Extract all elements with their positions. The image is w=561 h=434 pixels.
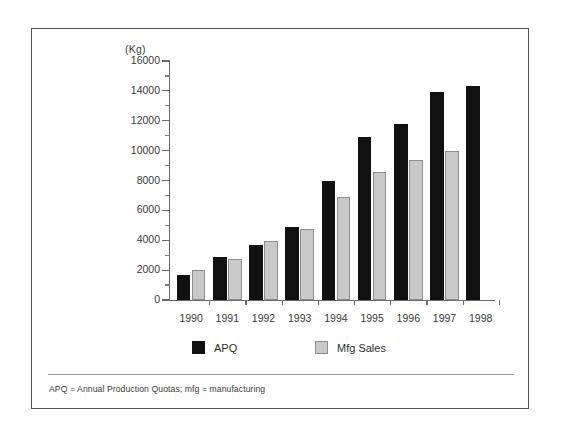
y-axis-tick-label: 10000 bbox=[100, 144, 160, 156]
bar-apq bbox=[322, 181, 336, 301]
black-square-swatch bbox=[192, 341, 205, 354]
y-axis-minor-tick bbox=[165, 255, 170, 256]
x-axis-tick bbox=[245, 300, 246, 305]
bar-apq bbox=[249, 245, 263, 300]
bar-apq bbox=[177, 275, 191, 300]
bar-mfg-sales bbox=[300, 229, 314, 300]
y-axis-tick-label: 0 bbox=[100, 293, 160, 305]
y-axis-tick-label: 6000 bbox=[100, 203, 160, 215]
x-axis-tick bbox=[390, 300, 391, 305]
y-axis-minor-tick bbox=[165, 284, 170, 285]
y-axis-tick-label: 12000 bbox=[100, 114, 160, 126]
y-axis-major-tick bbox=[162, 270, 170, 271]
legend-item: APQ bbox=[192, 341, 237, 354]
footnote-divider bbox=[48, 374, 514, 375]
y-axis-major-tick bbox=[162, 180, 170, 181]
y-axis-tick-label: 4000 bbox=[100, 233, 160, 245]
y-axis-tick-label: 8000 bbox=[100, 174, 160, 186]
y-axis-major-tick bbox=[162, 90, 170, 91]
y-axis-minor-tick bbox=[165, 225, 170, 226]
x-axis-tick bbox=[354, 300, 355, 305]
y-axis-major-tick bbox=[162, 120, 170, 121]
x-axis-tick bbox=[209, 300, 210, 305]
bar-mfg-sales bbox=[409, 160, 423, 300]
bar-apq bbox=[466, 86, 480, 300]
y-axis-tick-label: 14000 bbox=[100, 84, 160, 96]
bar-mfg-sales bbox=[228, 259, 242, 300]
bar-mfg-sales bbox=[373, 172, 387, 300]
x-axis-tick-label: 1998 bbox=[458, 312, 504, 324]
x-axis-tick bbox=[426, 300, 427, 305]
y-axis-minor-tick bbox=[165, 195, 170, 196]
y-axis-major-tick bbox=[162, 150, 170, 151]
x-axis-tick bbox=[499, 300, 500, 305]
gray-square-swatch bbox=[315, 341, 328, 354]
bar-apq bbox=[285, 227, 299, 300]
bar-apq bbox=[358, 137, 372, 300]
y-axis-major-tick bbox=[162, 60, 170, 61]
bar-apq bbox=[394, 124, 408, 300]
bar-chart-plot: (Kg) 02000400060008000100001200014000160… bbox=[32, 29, 530, 410]
bar-mfg-sales bbox=[337, 197, 351, 300]
x-axis-line bbox=[169, 300, 495, 301]
y-axis-minor-tick bbox=[165, 75, 170, 76]
chart-figure-frame: (Kg) 02000400060008000100001200014000160… bbox=[31, 28, 529, 409]
y-axis-minor-tick bbox=[165, 135, 170, 136]
y-axis-major-tick bbox=[162, 210, 170, 211]
x-axis-tick bbox=[282, 300, 283, 305]
bar-mfg-sales bbox=[264, 241, 278, 300]
y-axis-minor-tick bbox=[165, 165, 170, 166]
y-axis-major-tick bbox=[162, 299, 170, 300]
y-axis-tick-label: 16000 bbox=[100, 54, 160, 66]
legend-label: APQ bbox=[214, 342, 237, 354]
y-axis-tick-label: 2000 bbox=[100, 263, 160, 275]
chart-footnote: APQ = Annual Production Quotas; mfg = ma… bbox=[49, 384, 265, 394]
bar-apq bbox=[430, 92, 444, 300]
bar-mfg-sales bbox=[445, 151, 459, 300]
y-axis-minor-tick bbox=[165, 105, 170, 106]
x-axis-tick bbox=[318, 300, 319, 305]
chart-legend: APQMfg Sales bbox=[32, 341, 530, 359]
legend-label: Mfg Sales bbox=[337, 342, 386, 354]
x-axis-tick bbox=[463, 300, 464, 305]
legend-item: Mfg Sales bbox=[315, 341, 386, 354]
bar-apq bbox=[213, 257, 227, 300]
bar-mfg-sales bbox=[192, 270, 206, 300]
y-axis-major-tick bbox=[162, 240, 170, 241]
